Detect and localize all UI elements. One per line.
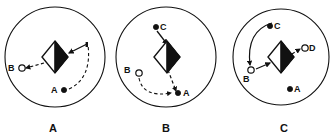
panel-a-node-a-marker [61,87,66,92]
panel-b-node-b-marker [136,70,142,76]
panel-b-caption: B [162,122,170,134]
panel-c-node-c-label: C [274,21,281,31]
panel-c-node-b-marker [248,67,254,73]
panel-a-waypoint-tick [86,42,88,47]
panel-c-node-a-label: A [294,84,301,94]
panel-b-node-a-label: A [183,88,190,98]
panel-c-node-d-label: D [309,43,316,53]
panel-b-node-c-marker [153,24,158,29]
panel-a-node-b-marker [19,65,25,71]
panel-a-caption: A [49,122,57,134]
three-panel-robot-path-figure: B A A C B A B [0,0,330,138]
panel-b-node-c-label: C [160,22,167,32]
panel-a-node-b-label: B [8,63,15,73]
panel-c-node-c-marker [267,23,272,28]
panel-b-node-b-label: B [124,65,131,75]
panel-c-node-a-marker [287,86,292,91]
panel-c-caption: C [280,122,288,134]
panel-c-node-b-label: B [243,74,250,84]
panel-a-node-a-label: A [51,85,58,95]
panel-c-node-d-marker [302,45,308,51]
panel-b-node-a-marker [175,90,180,95]
